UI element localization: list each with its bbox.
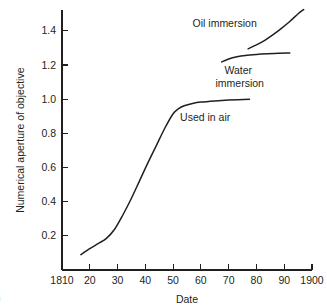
annotation-oil-immersion: Oil immersion: [193, 17, 257, 29]
curve-annotations: Used in airWaterimmersionOil immersion: [180, 17, 264, 123]
figure-container: 0.20.40.60.81.01.21.4 181020304050607080…: [0, 0, 327, 306]
y-tick-label: 0.6: [41, 161, 56, 173]
curve-water-immersion: [222, 53, 290, 62]
annotation-used-in-air: Used in air: [180, 111, 231, 123]
x-tick-label: 50: [167, 274, 179, 286]
annotation-water-immersion-line1: Water: [225, 64, 253, 76]
annotation-water-immersion-line2: immersion: [216, 77, 265, 89]
figure-label: ): [0, 292, 1, 304]
y-axis-title: Numerical aperture of objective: [14, 67, 26, 212]
y-tick-label: 1.2: [41, 59, 56, 71]
y-tick-label: 1.4: [41, 24, 56, 36]
y-tick-label: 0.2: [41, 229, 56, 241]
x-tick-label: 60: [195, 274, 207, 286]
x-tick-label: 1900: [300, 274, 324, 286]
y-tick-label: 0.8: [41, 127, 56, 139]
x-tick-label: 30: [112, 274, 124, 286]
x-axis-title: Date: [176, 293, 198, 305]
y-tick-label: 0.4: [41, 195, 56, 207]
curve-oil-immersion: [248, 10, 304, 49]
x-axis: 181020304050607080901900: [50, 264, 324, 286]
x-tick-label: 90: [278, 274, 290, 286]
x-tick-label: 20: [84, 274, 96, 286]
x-tick-label: 40: [139, 274, 151, 286]
numerical-aperture-chart: 0.20.40.60.81.01.21.4 181020304050607080…: [0, 0, 327, 306]
y-axis: 0.20.40.60.81.01.21.4: [41, 10, 68, 270]
x-tick-label: 1810: [50, 274, 74, 286]
y-tick-label: 1.0: [41, 93, 56, 105]
data-curves: [81, 10, 304, 255]
x-tick-label: 80: [251, 274, 263, 286]
x-tick-label: 70: [223, 274, 235, 286]
